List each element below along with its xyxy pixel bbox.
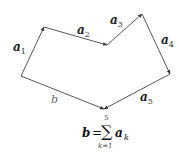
labels-layer: a1a2a3a4a5b xyxy=(13,13,174,106)
vector-a4-label: a4 xyxy=(161,33,174,49)
formula-upper-limit: 5 xyxy=(104,114,108,122)
vector-a2-label: a2 xyxy=(77,23,90,39)
vector-a1-label: a1 xyxy=(13,40,26,56)
formula-term: a xyxy=(115,126,123,140)
sigma-symbol: ∑ xyxy=(101,122,112,141)
vector-b-arrow xyxy=(21,76,104,109)
vector-a3-label: a3 xyxy=(110,13,123,29)
vector-a5-label: a5 xyxy=(140,90,153,106)
formula-term-subscript: k xyxy=(124,133,129,142)
resultant-b-label: b xyxy=(51,93,58,106)
vector-a2-arrow xyxy=(44,27,107,45)
formula-lower-limit: k=1 xyxy=(98,142,113,150)
vector-a5-arrow xyxy=(104,74,170,109)
formula-lhs: b xyxy=(82,126,90,140)
sum-formula: b = 5 ∑ k=1 a k xyxy=(82,114,152,154)
